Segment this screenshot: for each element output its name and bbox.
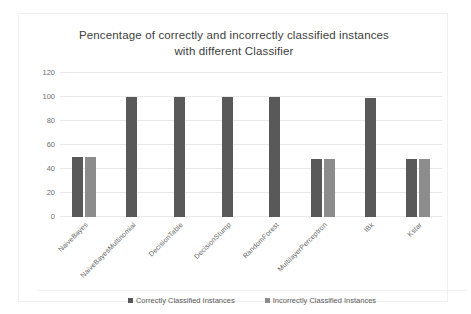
bar bbox=[324, 159, 335, 217]
bar-group bbox=[156, 73, 204, 217]
legend-swatch-icon bbox=[128, 298, 133, 303]
x-axis-tick-slot: DecisionTable bbox=[156, 217, 204, 279]
legend-label: Incorrectly Classified Instances bbox=[273, 296, 376, 305]
bar-group bbox=[299, 73, 347, 217]
x-axis-tick-label: Kstar bbox=[406, 221, 423, 238]
x-axis-tick-slot: IBk bbox=[347, 217, 395, 279]
bar-group bbox=[394, 73, 442, 217]
legend-swatch-icon bbox=[265, 298, 270, 303]
legend-entry[interactable]: Correctly Classified Instances bbox=[128, 296, 235, 305]
chart-title-line-2: with different Classifier bbox=[39, 43, 429, 59]
x-axis-tick-slot: NaiveBayesMultinomial bbox=[108, 217, 156, 279]
bar bbox=[174, 97, 185, 217]
chart-title-line-1: Pencentage of correctly and incorrectly … bbox=[79, 29, 389, 41]
bar-group bbox=[347, 73, 395, 217]
bar-group bbox=[251, 73, 299, 217]
chart-legend: Correctly Classified InstancesIncorrectl… bbox=[37, 296, 467, 305]
y-axis-tick-label: 40 bbox=[47, 164, 55, 173]
chart-title: Pencentage of correctly and incorrectly … bbox=[39, 27, 429, 59]
x-axis-tick-label: IBk bbox=[363, 221, 375, 233]
bar-group bbox=[60, 73, 108, 217]
bar bbox=[419, 159, 430, 217]
plot-area: 020406080100120 bbox=[60, 73, 442, 217]
x-axis-tick-slot: RandomForest bbox=[251, 217, 299, 279]
bar-group bbox=[203, 73, 251, 217]
bar bbox=[311, 159, 322, 217]
bar bbox=[72, 157, 83, 217]
chart-frame: Pencentage of correctly and incorrectly … bbox=[18, 13, 448, 302]
legend-divider bbox=[37, 290, 467, 291]
x-axis-tick-labels: NaiveBayesNaiveBayesMultinomialDecisionT… bbox=[60, 217, 442, 279]
bars-layer bbox=[60, 73, 442, 217]
y-axis-tick-label: 0 bbox=[51, 212, 55, 221]
bar-group bbox=[108, 73, 156, 217]
legend-label: Correctly Classified Instances bbox=[136, 296, 235, 305]
y-axis-tick-label: 100 bbox=[42, 92, 55, 101]
y-axis-tick-label: 120 bbox=[42, 68, 55, 77]
bar bbox=[269, 97, 280, 217]
x-axis-tick-slot: DecisionStump bbox=[203, 217, 251, 279]
legend-entry[interactable]: Incorrectly Classified Instances bbox=[265, 296, 376, 305]
x-axis-tick-slot: MultilayerPerceptron bbox=[299, 217, 347, 279]
y-axis-tick-label: 20 bbox=[47, 188, 55, 197]
bar bbox=[85, 157, 96, 217]
bar bbox=[126, 97, 137, 217]
x-axis-tick-slot: Kstar bbox=[394, 217, 442, 279]
bar bbox=[365, 98, 376, 217]
bar bbox=[222, 97, 233, 217]
x-axis-tick-label: NaiveBayes bbox=[57, 221, 89, 253]
y-axis-tick-label: 60 bbox=[47, 140, 55, 149]
y-axis-tick-label: 80 bbox=[47, 116, 55, 125]
bar bbox=[406, 159, 417, 217]
